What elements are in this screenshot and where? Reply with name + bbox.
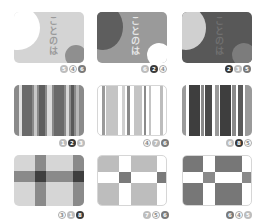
stripe: [182, 85, 186, 136]
stripe: [245, 85, 252, 136]
stripe: [102, 86, 105, 135]
block: [131, 156, 157, 172]
block: [215, 183, 242, 206]
stripe: [34, 85, 37, 136]
color-badges: 5 4 6: [60, 65, 86, 74]
large-circle: [182, 12, 206, 50]
stripe: [149, 86, 151, 135]
color-badge: 6: [226, 211, 234, 219]
small-circle: [65, 45, 84, 63]
stripe: [106, 86, 118, 135]
stripe: [54, 85, 64, 136]
design-card-check-light[interactable]: [97, 155, 167, 206]
stripe: [22, 85, 32, 136]
color-badge: 3: [77, 139, 85, 147]
color-badge: 2: [225, 65, 233, 73]
color-badge: 8: [235, 139, 243, 147]
stripe: [122, 86, 125, 135]
color-badges: 6 8 5: [226, 139, 252, 148]
color-badge: 4: [235, 211, 243, 219]
color-badge: 4: [159, 65, 167, 73]
color-badge: 5: [244, 139, 252, 147]
stripe: [66, 85, 69, 136]
stripe: [134, 86, 142, 135]
stripe: [71, 85, 74, 136]
color-badge: 5: [243, 65, 251, 73]
stripe: [232, 85, 236, 136]
stripe: [47, 85, 52, 136]
stripe: [76, 85, 79, 136]
large-circle: [97, 12, 123, 50]
block: [183, 156, 203, 172]
design-card-circles-dark[interactable]: ことのは: [182, 12, 252, 63]
stripe: [238, 85, 243, 136]
color-badge: 5: [152, 211, 160, 219]
color-badge: 6: [78, 65, 86, 73]
block: [119, 172, 131, 183]
stripe: [201, 85, 204, 136]
color-badges: 6 2 4: [141, 65, 167, 74]
color-badges: 2 3 5: [225, 65, 251, 74]
stripe: [144, 86, 146, 135]
design-card-check-dark[interactable]: [182, 155, 252, 206]
color-badge: 1: [67, 211, 75, 219]
block: [242, 172, 252, 183]
design-card-circles-light[interactable]: ことのは: [14, 12, 84, 63]
color-badge: 3: [234, 65, 242, 73]
color-badges: 6 4 5: [226, 211, 252, 220]
color-badge: 6: [141, 65, 149, 73]
color-badges: 7 5 6: [143, 211, 169, 220]
small-circle: [147, 43, 167, 63]
block: [215, 156, 242, 172]
color-badges: 3 1 8: [58, 211, 84, 220]
color-badge: 4: [69, 65, 77, 73]
color-badge: 1: [59, 139, 67, 147]
stripe: [189, 85, 200, 136]
stripe: [220, 85, 231, 136]
color-badge: 3: [58, 211, 66, 219]
block: [157, 172, 167, 183]
color-badge: 7: [152, 139, 160, 147]
card-title-text: ことのは: [214, 16, 224, 56]
block: [131, 183, 157, 206]
stripe: [205, 85, 212, 136]
card-title-text: ことのは: [48, 16, 58, 56]
color-badge: 6: [161, 211, 169, 219]
block: [203, 172, 215, 183]
color-badge: 2: [150, 65, 158, 73]
small-circle: [232, 43, 252, 63]
band-intersection: [73, 171, 84, 182]
color-badges: 4 7 6: [143, 139, 169, 148]
color-badge: 7: [143, 211, 151, 219]
band-intersection: [35, 171, 46, 182]
color-badges: 1 2 3: [59, 139, 85, 148]
block: [183, 183, 203, 206]
color-badge: 8: [76, 211, 84, 219]
design-card-circles-mid[interactable]: ことのは: [97, 12, 167, 63]
block: [98, 156, 119, 172]
color-badge: 4: [143, 139, 151, 147]
stripe: [127, 86, 130, 135]
card-title-text: ことのは: [130, 16, 140, 56]
color-badge: 6: [161, 139, 169, 147]
stripe: [39, 85, 45, 136]
block: [98, 183, 119, 206]
color-badge: 5: [60, 65, 68, 73]
color-badge: 6: [226, 139, 234, 147]
design-card-stripes-mid[interactable]: [14, 85, 84, 136]
color-badge: 5: [244, 211, 252, 219]
design-card-stripes-light[interactable]: [97, 85, 167, 136]
stripe: [215, 85, 219, 136]
stripe: [160, 86, 163, 135]
design-card-plaid-light[interactable]: [14, 155, 84, 206]
large-circle: [14, 12, 40, 50]
design-card-stripes-dark[interactable]: [182, 85, 252, 136]
color-badge: 2: [68, 139, 76, 147]
